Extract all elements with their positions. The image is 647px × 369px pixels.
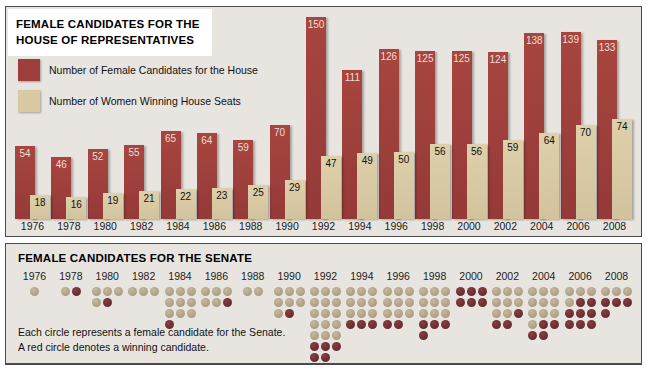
senate-dot-grid-1992 (310, 287, 341, 362)
winners-value-2006: 70 (576, 125, 596, 138)
winner-dot-2002-9 (514, 309, 523, 318)
candidate-dot-2002-7 (492, 309, 501, 318)
winner-dot-2000-1 (456, 287, 465, 296)
winners-value-1980: 19 (103, 193, 123, 206)
senate-dot-grid-1998 (419, 287, 450, 340)
winner-dot-1998-11 (430, 320, 439, 329)
candidate-dot-1992-14 (321, 331, 330, 340)
winner-dot-1992-20 (321, 353, 330, 362)
candidates-value-1976: 54 (15, 146, 35, 159)
candidate-dot-1984-8 (176, 309, 185, 318)
candidate-dot-1998-7 (419, 309, 428, 318)
candidate-dot-1996-9 (405, 309, 414, 318)
candidate-dot-1996-1 (383, 287, 392, 296)
candidate-dot-1998-5 (430, 298, 439, 307)
senate-dot-grid-2008 (601, 287, 632, 318)
winner-dot-1990-8 (285, 309, 294, 318)
senate-dot-grid-1976 (19, 287, 50, 296)
senate-footnote-line2: A red circle denotes a winning candidate… (18, 340, 285, 356)
candidates-value-1982: 55 (124, 145, 144, 158)
candidate-dot-1998-3 (441, 287, 450, 296)
candidate-dot-1998-1 (419, 287, 428, 296)
winner-dot-1996-11 (394, 320, 403, 329)
winner-dot-2006-8 (576, 309, 585, 318)
winner-dot-2006-7 (565, 309, 574, 318)
candidate-dot-2006-1 (565, 287, 574, 296)
figure-canvas: FEMALE CANDIDATES FOR THE HOUSE OF REPRE… (0, 0, 647, 369)
candidate-dot-1992-5 (321, 298, 330, 307)
senate-year-label-1990: 1990 (272, 270, 307, 282)
house-year-label-2002: 2002 (488, 220, 523, 232)
winner-dot-2006-12 (587, 320, 596, 329)
candidate-dot-1986-4 (201, 298, 210, 307)
candidates-value-2008: 133 (597, 40, 617, 53)
candidates-value-1996: 126 (379, 49, 399, 62)
candidate-dot-2004-2 (539, 287, 548, 296)
winners-bar-1988: 25 (248, 185, 268, 219)
winner-dot-2008-5 (612, 298, 621, 307)
winners-value-1994: 49 (357, 153, 377, 166)
candidates-swatch-icon (18, 59, 40, 81)
senate-title: FEMALE CANDIDATES FOR THE SENATE (18, 252, 252, 264)
winners-bar-2008: 74 (612, 119, 632, 219)
candidate-dot-1984-7 (165, 309, 174, 318)
candidate-dot-1994-5 (357, 298, 366, 307)
senate-dot-grid-1986 (201, 287, 232, 307)
house-year-label-1986: 1986 (197, 220, 232, 232)
senate-year-label-1998: 1998 (417, 270, 452, 282)
candidate-dot-1980-3 (114, 287, 123, 296)
candidate-dot-1998-6 (441, 298, 450, 307)
senate-year-label-2004: 2004 (526, 270, 561, 282)
winners-bar-1994: 49 (357, 153, 377, 219)
winners-bar-1982: 21 (139, 191, 159, 219)
candidate-dot-1984-1 (165, 287, 174, 296)
candidate-dot-1996-2 (394, 287, 403, 296)
senate-year-label-1982: 1982 (126, 270, 161, 282)
house-year-label-2004: 2004 (524, 220, 559, 232)
house-year-label-1982: 1982 (124, 220, 159, 232)
winners-bar-1980: 19 (103, 193, 123, 219)
senate-year-label-1992: 1992 (308, 270, 343, 282)
senate-dot-grid-1984 (165, 287, 196, 329)
candidate-dot-1994-8 (357, 309, 366, 318)
senate-dot-grid-1994 (346, 287, 377, 329)
candidates-legend-label: Number of Female Candidates for the Hous… (49, 64, 258, 76)
house-title-line1: FEMALE CANDIDATES FOR THE (16, 16, 200, 32)
candidate-dot-1976-1 (30, 287, 39, 296)
winners-value-1978: 16 (66, 197, 86, 210)
winner-dot-2002-10 (492, 320, 501, 329)
bar-group-1988: 59251988 (233, 14, 268, 232)
senate-footnote: Each circle represents a female candidat… (18, 325, 285, 357)
candidate-dot-2004-5 (539, 298, 548, 307)
candidates-value-2006: 139 (561, 32, 581, 45)
winners-bar-1996: 50 (394, 152, 414, 219)
winners-value-1992: 47 (321, 156, 341, 169)
candidates-value-1990: 70 (270, 125, 290, 138)
winner-dot-1998-12 (441, 320, 450, 329)
senate-dot-grid-2002 (492, 287, 523, 329)
candidate-dot-2004-7 (528, 309, 537, 318)
candidate-dot-1992-12 (332, 320, 341, 329)
candidates-value-1992: 150 (306, 17, 326, 30)
candidate-dot-2002-8 (503, 309, 512, 318)
bar-group-2008: 133742008 (597, 14, 632, 232)
candidate-dot-1990-6 (296, 298, 305, 307)
house-legend: Number of Female Candidates for the Hous… (18, 59, 258, 121)
house-year-label-2000: 2000 (452, 220, 487, 232)
senate-column-2000: 2000 (454, 270, 489, 362)
candidate-dot-1984-2 (176, 287, 185, 296)
candidates-value-1978: 46 (51, 157, 71, 170)
house-year-label-1990: 1990 (270, 220, 305, 232)
house-year-label-1988: 1988 (233, 220, 268, 232)
candidate-dot-2004-9 (550, 309, 559, 318)
winners-value-2002: 59 (503, 140, 523, 153)
winner-dot-2006-10 (565, 320, 574, 329)
candidate-dot-1992-11 (321, 320, 330, 329)
senate-column-1998: 1998 (417, 270, 452, 362)
senate-dot-grid-2006 (565, 287, 596, 329)
house-year-label-1992: 1992 (306, 220, 341, 232)
senate-dot-grid-1996 (383, 287, 414, 329)
candidate-dot-2002-5 (503, 298, 512, 307)
candidate-dot-1996-8 (394, 309, 403, 318)
winners-value-1998: 56 (430, 144, 450, 157)
